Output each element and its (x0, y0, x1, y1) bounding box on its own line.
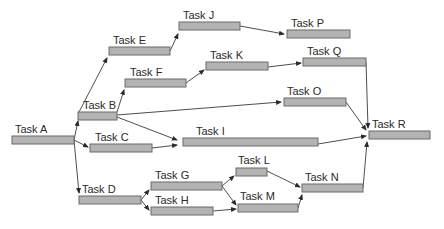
arrow-h-to-m (213, 209, 236, 211)
arrow-o-to-r (346, 102, 366, 130)
arrow-g-to-m (222, 186, 236, 205)
arrow-k-to-q (268, 63, 301, 67)
diagram-canvas: Task ATask BTask CTask DTask ETask FTask… (0, 0, 444, 229)
task-label: Task C (95, 131, 129, 143)
task-label: Task K (210, 49, 244, 61)
task-bar (90, 144, 152, 152)
arrow-b-to-o (117, 102, 281, 115)
task-bar (302, 184, 363, 192)
task-label: Task D (82, 183, 116, 195)
task-c: Task C (90, 131, 152, 152)
task-bar (303, 58, 366, 66)
arrow-f-to-k (186, 70, 204, 83)
task-f: Task F (125, 66, 186, 87)
task-bar (151, 182, 222, 190)
task-label: Task F (130, 66, 163, 78)
task-l: Task L (236, 154, 270, 176)
task-bar (206, 62, 268, 70)
task-bar (287, 30, 350, 38)
task-bar (369, 131, 430, 139)
task-j: Task J (179, 9, 240, 30)
task-label: Task N (305, 171, 339, 183)
task-bar (79, 196, 141, 204)
arrow-a-to-b (74, 121, 78, 140)
arrow-d-to-g (141, 190, 149, 200)
arrow-j-to-p (240, 26, 284, 34)
task-a: Task A (12, 123, 74, 144)
task-i: Task I (183, 125, 318, 146)
task-e: Task E (109, 34, 170, 55)
task-q: Task Q (303, 45, 366, 66)
arrow-d-to-h (141, 200, 149, 210)
task-n: Task N (302, 171, 363, 192)
arrow-b-to-f (117, 90, 124, 112)
arrow-a-to-c (74, 140, 88, 147)
task-bar (109, 47, 170, 55)
task-label: Task G (155, 169, 189, 181)
network-diagram: Task ATask BTask CTask DTask ETask FTask… (0, 0, 444, 229)
task-label: Task B (83, 99, 116, 111)
arrow-a-to-d (74, 140, 79, 193)
task-o: Task O (284, 85, 346, 106)
task-m: Task M (238, 190, 298, 212)
task-label: Task R (372, 118, 406, 130)
task-bar (125, 79, 186, 87)
task-bar (238, 204, 298, 212)
task-bar (179, 22, 240, 30)
arrow-m-to-n (298, 195, 302, 208)
task-bar (12, 136, 74, 144)
arrow-c-to-i (152, 145, 177, 148)
arrow-q-to-r (366, 62, 368, 128)
task-b: Task B (78, 99, 117, 120)
task-label: Task H (155, 194, 189, 206)
task-g: Task G (151, 169, 222, 190)
task-bar (183, 138, 318, 146)
task-d: Task D (79, 183, 141, 204)
task-label: Task Q (307, 45, 342, 57)
arrow-g-to-l (222, 176, 234, 186)
arrow-n-to-r (363, 142, 367, 188)
task-bar (151, 207, 213, 215)
task-h: Task H (151, 194, 213, 215)
arrow-i-to-r (318, 136, 366, 144)
task-bar (236, 168, 267, 176)
arrow-e-to-j (170, 34, 178, 51)
task-label: Task J (183, 9, 214, 21)
task-r: Task R (369, 118, 430, 139)
arrow-l-to-n (267, 171, 300, 187)
task-bar (284, 98, 346, 106)
task-k: Task K (206, 49, 268, 70)
task-label: Task P (291, 17, 324, 29)
task-label: Task O (287, 85, 322, 97)
task-p: Task P (287, 17, 350, 38)
task-label: Task L (238, 154, 270, 166)
task-bar (78, 112, 117, 120)
task-label: Task A (15, 123, 48, 135)
task-label: Task E (113, 34, 146, 46)
task-label: Task I (196, 125, 225, 137)
task-label: Task M (240, 190, 275, 202)
